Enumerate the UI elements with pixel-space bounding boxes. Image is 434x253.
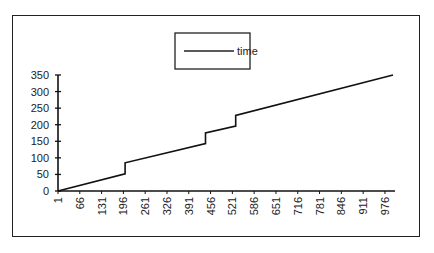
x-tick-label: 1 <box>52 197 64 203</box>
x-tick-label: 326 <box>161 197 173 215</box>
x-tick-label: 651 <box>270 197 282 215</box>
y-tick-label: 350 <box>31 69 49 81</box>
x-tick-label: 66 <box>74 197 86 209</box>
x-tick-label: 261 <box>139 197 151 215</box>
y-tick-label: 0 <box>43 185 49 197</box>
series-line-time <box>58 75 393 191</box>
x-tick-label: 976 <box>379 197 391 215</box>
axes <box>58 75 395 191</box>
x-tick-label: 911 <box>357 197 369 215</box>
x-tick-label: 391 <box>183 197 195 215</box>
x-tick-label: 716 <box>292 197 304 215</box>
y-tick-label: 100 <box>31 152 49 164</box>
x-tick-label: 521 <box>226 197 238 215</box>
y-tick-label: 50 <box>37 168 49 180</box>
x-tick-label: 781 <box>314 197 326 215</box>
y-tick-label: 200 <box>31 119 49 131</box>
y-tick-label: 300 <box>31 86 49 98</box>
y-tick-label: 150 <box>31 135 49 147</box>
x-tick-label: 196 <box>117 197 129 215</box>
x-axis-ticks: 1661311962613263914565215866517167818469… <box>52 191 391 215</box>
x-tick-label: 846 <box>335 197 347 215</box>
y-axis-ticks: 050100150200250300350 <box>31 69 61 197</box>
legend-label: time <box>237 45 258 57</box>
line-chart: time 050100150200250300350 1661311962613… <box>0 0 434 253</box>
x-tick-label: 131 <box>96 197 108 215</box>
x-tick-label: 456 <box>205 197 217 215</box>
x-tick-label: 586 <box>248 197 260 215</box>
y-tick-label: 250 <box>31 102 49 114</box>
